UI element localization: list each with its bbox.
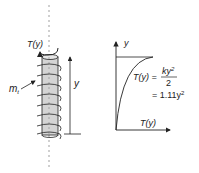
torque-label: T(y) bbox=[27, 39, 43, 49]
equation-denominator: 2 bbox=[166, 78, 171, 88]
height-label: y bbox=[73, 78, 80, 89]
graph-y-label: y bbox=[123, 38, 129, 48]
distributed-torque-pointer bbox=[21, 81, 35, 89]
distributed-torque-label: mt bbox=[9, 83, 19, 95]
torsion-diagram: T(y) mt y y T(y) T(y) = ky2 2 = 1.11y2 bbox=[0, 0, 199, 173]
equation-lhs: T(y) = bbox=[133, 72, 157, 82]
graph-x-label: T(y) bbox=[140, 118, 156, 128]
equation-numerator: ky2 bbox=[162, 66, 175, 76]
equation-result: = 1.11y2 bbox=[152, 90, 185, 100]
torque-graph: y T(y) T(y) = ky2 2 = 1.11y2 bbox=[116, 38, 185, 130]
